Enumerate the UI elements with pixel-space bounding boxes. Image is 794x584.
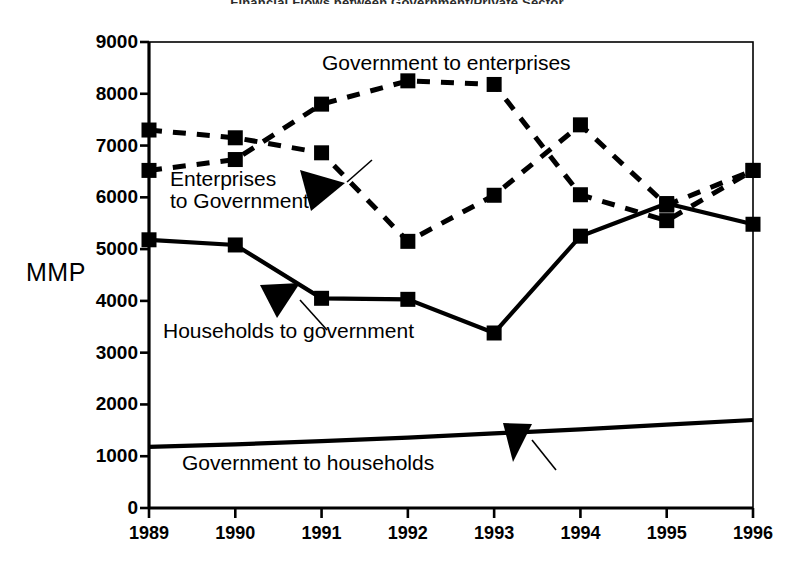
y-tick-label: 6000 [52,187,138,206]
series-label-households-to-government: Households to government [163,320,414,342]
series-marker [573,117,588,132]
plot-frame [149,42,753,508]
x-tick-label: 1994 [540,524,620,542]
y-tick-label: 4000 [52,291,138,310]
series-label-enterprises-to-government: Enterprises to Government [170,168,309,212]
x-tick-label: 1989 [109,524,189,542]
series-marker [142,163,157,178]
series-marker [487,188,502,203]
y-tick-label: 7000 [52,136,138,155]
y-tick-label: 2000 [52,394,138,413]
y-tick-label: 8000 [52,84,138,103]
chart-container: Financial Flows between Government/Priva… [0,0,794,584]
series-marker [142,232,157,247]
series-marker [400,73,415,88]
y-axis-title: MMP [26,258,86,287]
x-tick-label: 1993 [454,524,534,542]
series-marker [314,145,329,160]
series-line-3 [149,420,753,447]
x-tick-label: 1991 [282,524,362,542]
annotation-arrow-households-to-government [260,283,300,318]
annotation-arrow-enterprises-to-government-leader [347,160,372,182]
series-marker [487,325,502,340]
series-marker [659,213,674,228]
series-marker [659,196,674,211]
y-tick-label: 3000 [52,343,138,362]
y-tick-label: 5000 [52,239,138,258]
series-marker [400,234,415,249]
series-marker [400,292,415,307]
series-label-government-to-households: Government to households [182,452,434,474]
series-marker [573,229,588,244]
x-tick-label: 1990 [195,524,275,542]
series-marker [746,217,761,232]
series-marker [487,77,502,92]
annotation-arrow-government-to-households [503,423,532,462]
y-tick-label: 0 [52,498,138,517]
series-label-government-to-enterprises: Government to enterprises [322,52,571,74]
series-marker [314,291,329,306]
x-tick-label: 1996 [713,524,793,542]
y-tick-label: 9000 [52,32,138,51]
series-marker [573,187,588,202]
series-marker [228,152,243,167]
annotation-arrow-government-to-households-leader [532,440,556,470]
series-marker [228,130,243,145]
x-tick-label: 1992 [368,524,448,542]
series-marker [314,97,329,112]
series-marker [142,123,157,138]
series-marker [228,237,243,252]
y-tick-label: 1000 [52,446,138,465]
series-marker [746,163,761,178]
x-tick-label: 1995 [627,524,707,542]
